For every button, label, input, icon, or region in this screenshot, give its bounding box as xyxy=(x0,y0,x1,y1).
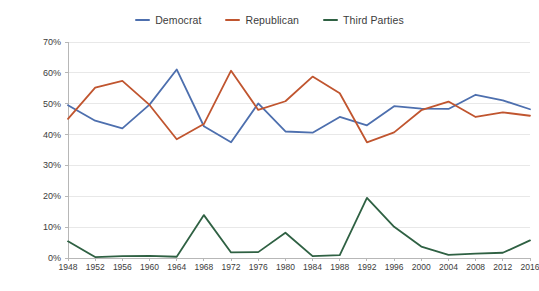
y-axis-tick-labels: 0%10%20%30%40%50%60%70% xyxy=(27,42,61,258)
series-line-democrat[interactable] xyxy=(68,69,530,142)
y-tick-label: 40% xyxy=(27,130,61,140)
x-tick-label: 1996 xyxy=(385,261,404,273)
y-tick-label: 0% xyxy=(27,253,61,263)
x-tick-label: 1956 xyxy=(113,261,132,273)
y-tick-label: 50% xyxy=(27,99,61,109)
x-tick-label: 1988 xyxy=(330,261,349,273)
legend-swatch-icon xyxy=(323,19,338,21)
x-tick-label: 1948 xyxy=(59,261,78,273)
x-tick-label: 1984 xyxy=(303,261,322,273)
y-tick-label: 70% xyxy=(27,37,61,47)
x-tick-label: 1972 xyxy=(222,261,241,273)
chart-container: DemocratRepublicanThird Parties Percenta… xyxy=(0,0,539,291)
x-tick-label: 2016 xyxy=(521,261,539,273)
y-tick-label: 10% xyxy=(27,222,61,232)
x-tick-label: 1960 xyxy=(140,261,159,273)
legend-swatch-icon xyxy=(225,19,240,21)
x-tick-label: 1976 xyxy=(249,261,268,273)
x-tick-label: 2004 xyxy=(439,261,458,273)
x-axis-tick-labels: 1948195219561960196419681972197619801984… xyxy=(68,261,530,275)
x-tick-label: 2012 xyxy=(493,261,512,273)
x-tick-label: 1952 xyxy=(86,261,105,273)
x-tick-label: 1992 xyxy=(357,261,376,273)
x-tick-label: 1964 xyxy=(167,261,186,273)
legend-item-republican[interactable]: Republican xyxy=(225,15,299,26)
x-tick-label: 2008 xyxy=(466,261,485,273)
x-tick-label: 1980 xyxy=(276,261,295,273)
y-tick-label: 30% xyxy=(27,160,61,170)
x-tick-label: 1968 xyxy=(194,261,213,273)
legend-label: Republican xyxy=(245,15,299,26)
chart-legend: DemocratRepublicanThird Parties xyxy=(0,12,539,28)
x-tick-label: 2000 xyxy=(412,261,431,273)
y-tick-label: 20% xyxy=(27,191,61,201)
legend-item-third-parties[interactable]: Third Parties xyxy=(323,15,404,26)
legend-label: Democrat xyxy=(155,15,201,26)
chart-plot-svg xyxy=(68,42,530,258)
legend-swatch-icon xyxy=(135,19,150,21)
legend-label: Third Parties xyxy=(343,15,404,26)
plot-area xyxy=(68,42,530,258)
y-tick-label: 60% xyxy=(27,68,61,78)
legend-item-democrat[interactable]: Democrat xyxy=(135,15,201,26)
